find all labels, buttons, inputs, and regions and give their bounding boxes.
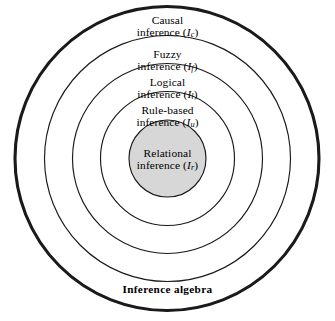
ring-label-fuzzy: Fuzzy inference (If) xyxy=(0,48,335,74)
ring-label-fuzzy-line1: Fuzzy xyxy=(0,48,335,60)
ring-label-rule-based: Rule-based inference (Iu) xyxy=(0,104,335,130)
ring-label-rule-based-line2: inference (Iu) xyxy=(0,116,335,129)
ring-label-causal-line2: inference (Ic) xyxy=(0,26,335,39)
ring-label-relational-line1: Relational xyxy=(0,147,335,159)
inference-algebra-diagram: Causal inference (Ic) Fuzzy inference (I… xyxy=(0,0,335,321)
ring-label-logical-line2: inference (Il) xyxy=(0,88,335,101)
ring-label-fuzzy-line2: inference (If) xyxy=(0,60,335,73)
ring-label-causal-line1: Causal xyxy=(0,14,335,26)
ring-label-relational-line2: inference (Ir) xyxy=(0,159,335,172)
ring-label-logical-line1: Logical xyxy=(0,76,335,88)
ring-label-causal: Causal inference (Ic) xyxy=(0,14,335,40)
ring-label-logical: Logical inference (Il) xyxy=(0,76,335,102)
ring-label-relational: Relational inference (Ir) xyxy=(0,147,335,173)
diagram-caption: Inference algebra xyxy=(0,283,335,295)
ring-label-rule-based-line1: Rule-based xyxy=(0,104,335,116)
